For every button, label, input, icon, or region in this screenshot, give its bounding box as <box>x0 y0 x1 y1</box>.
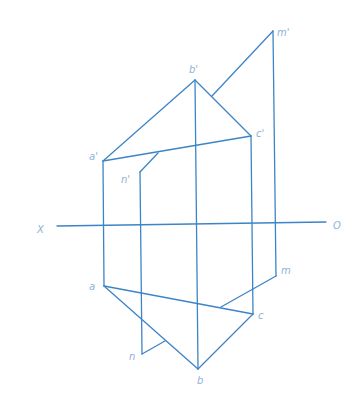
label-m: m <box>281 265 291 276</box>
label-b-prime: b' <box>189 64 198 75</box>
edge-a-b <box>104 286 198 369</box>
label-a: a <box>89 281 95 292</box>
projector-c <box>251 136 253 314</box>
x-axis-line <box>57 222 326 226</box>
axis-label-o: O <box>333 220 341 231</box>
line-n-prime-visible <box>140 153 158 172</box>
label-n-prime: n' <box>121 174 130 185</box>
edge-b-prime-c-prime <box>195 80 251 136</box>
label-a-prime: a' <box>89 151 98 162</box>
edge-a-prime-c-prime <box>103 136 251 161</box>
line-n-visible <box>142 341 165 354</box>
label-n: n <box>129 351 135 362</box>
edge-a-prime-b-prime <box>103 80 195 161</box>
axis-label-x: X <box>36 224 45 235</box>
projection-diagram: X O a' b' c' m' n' a b c m n <box>0 0 361 406</box>
label-c: c <box>258 310 264 321</box>
label-c-prime: c' <box>256 128 264 139</box>
line-m-prime-visible <box>212 31 273 96</box>
label-b: b <box>197 375 203 386</box>
edge-b-c <box>198 314 253 369</box>
edge-a-c <box>104 286 253 314</box>
projector-a <box>103 161 104 286</box>
line-m-visible <box>221 276 276 307</box>
projector-m <box>273 31 276 276</box>
label-m-prime: m' <box>277 27 290 38</box>
projector-n <box>140 172 142 354</box>
